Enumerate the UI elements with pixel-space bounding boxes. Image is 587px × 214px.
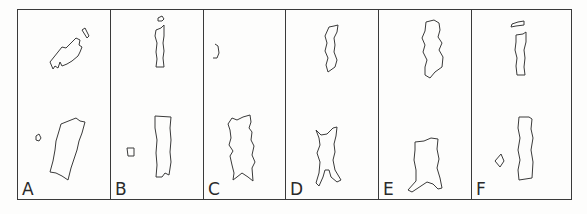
upper-small-piece — [158, 16, 164, 21]
panel-b-shapes — [111, 10, 204, 201]
lower-fragment — [155, 116, 171, 177]
upper-fragment — [50, 38, 82, 69]
lower-fragment — [518, 117, 533, 180]
panel-e: E — [379, 10, 472, 199]
lower-fragment — [50, 118, 85, 180]
upper-fragment — [325, 25, 338, 72]
panel-f: F — [472, 10, 573, 199]
lower-fragment — [228, 115, 255, 181]
lower-fragment — [408, 138, 442, 192]
panel-label: D — [290, 181, 303, 198]
upper-fragment — [213, 44, 219, 58]
panel-label: E — [383, 181, 394, 198]
upper-small-piece — [82, 28, 89, 38]
panel-a: A — [18, 10, 111, 199]
lower-small-piece — [127, 148, 134, 156]
panel-label: B — [115, 181, 127, 198]
panel-c-shapes — [204, 10, 286, 201]
lower-small-piece — [36, 134, 41, 141]
panel-c: C — [204, 10, 286, 199]
panel-b: B — [111, 10, 204, 199]
panel-label: F — [476, 181, 486, 198]
upper-fragment — [422, 20, 443, 78]
panel-label: C — [208, 181, 220, 198]
lower-fragment — [316, 127, 341, 186]
panel-e-shapes — [379, 10, 472, 201]
panel-label: A — [22, 181, 34, 198]
upper-fragment — [515, 32, 526, 75]
panel-a-shapes — [18, 10, 111, 201]
panel-f-shapes — [472, 10, 573, 201]
upper-fragment — [155, 25, 164, 67]
upper-small-piece — [511, 21, 524, 27]
panel-d: D — [286, 10, 379, 199]
lower-small-piece — [495, 154, 504, 167]
figure-frame: A B C D E — [17, 9, 572, 200]
panel-d-shapes — [286, 10, 379, 201]
